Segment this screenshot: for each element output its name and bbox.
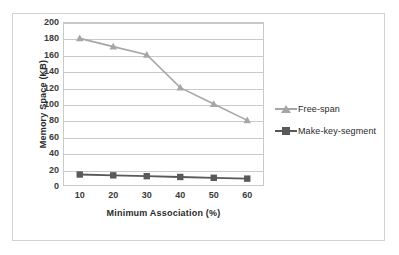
- y-axis-tick-label: 160: [27, 50, 59, 59]
- series-line: [80, 38, 248, 120]
- legend-label: Free-span: [297, 104, 340, 114]
- x-axis-tick-label: 30: [132, 190, 162, 200]
- data-point-marker-square: [211, 175, 217, 181]
- x-axis-tick-label: 20: [98, 190, 128, 200]
- series-make-key-segment: [77, 171, 251, 181]
- legend-swatch: [275, 125, 297, 137]
- x-axis-tick-label: 40: [165, 190, 195, 200]
- x-axis-tick-labels: 102030405060: [63, 190, 264, 202]
- data-point-marker-square: [110, 172, 116, 178]
- chart-figure-frame: Memory Space (KB) 2001801601401201008060…: [12, 13, 385, 241]
- y-axis-tick-label: 20: [27, 165, 59, 174]
- legend-label: Make-key-segment: [297, 126, 376, 136]
- y-axis-tick-label: 180: [27, 34, 59, 43]
- series-layer: [63, 22, 264, 186]
- y-axis-tick-label: 140: [27, 67, 59, 76]
- data-point-marker-triangle: [76, 35, 84, 42]
- y-axis-tick-label: 60: [27, 132, 59, 141]
- series-free-span: [76, 35, 251, 124]
- chart-canvas: Memory Space (KB) 2001801601401201008060…: [13, 14, 386, 242]
- x-axis-tick-label: 50: [199, 190, 229, 200]
- data-point-marker-square: [77, 171, 83, 177]
- chart-legend: Free-spanMake-key-segment: [275, 100, 383, 144]
- y-axis-tick-labels: 200180160140120100806040200: [27, 22, 59, 186]
- legend-item-make-key-segment[interactable]: Make-key-segment: [275, 122, 383, 140]
- data-point-marker-square: [144, 173, 150, 179]
- legend-swatch: [275, 103, 297, 115]
- legend-marker-triangle-icon: [281, 105, 291, 113]
- x-axis-tick-label: 10: [65, 190, 95, 200]
- y-axis-tick-label: 100: [27, 100, 59, 109]
- data-point-marker-square: [177, 174, 183, 180]
- y-axis-tick-label: 80: [27, 116, 59, 125]
- x-axis-title: Minimum Association (%): [63, 208, 264, 218]
- legend-item-free-span[interactable]: Free-span: [275, 100, 383, 118]
- y-axis-tick-label: 200: [27, 18, 59, 27]
- y-axis-tick-label: 40: [27, 149, 59, 158]
- y-axis-tick-label: 120: [27, 83, 59, 92]
- y-axis-tick-label: 0: [27, 182, 59, 191]
- legend-marker-square-icon: [282, 127, 290, 135]
- x-axis-tick-label: 60: [232, 190, 262, 200]
- series-line: [80, 175, 248, 179]
- data-point-marker-square: [244, 175, 250, 181]
